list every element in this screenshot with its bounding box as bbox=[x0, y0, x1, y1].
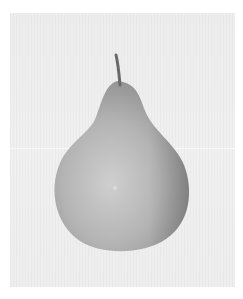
pear bbox=[54, 81, 189, 251]
photo-frame bbox=[10, 13, 235, 287]
highlight bbox=[113, 186, 117, 190]
pear-illustration bbox=[10, 13, 235, 287]
pear-stem bbox=[116, 55, 120, 85]
